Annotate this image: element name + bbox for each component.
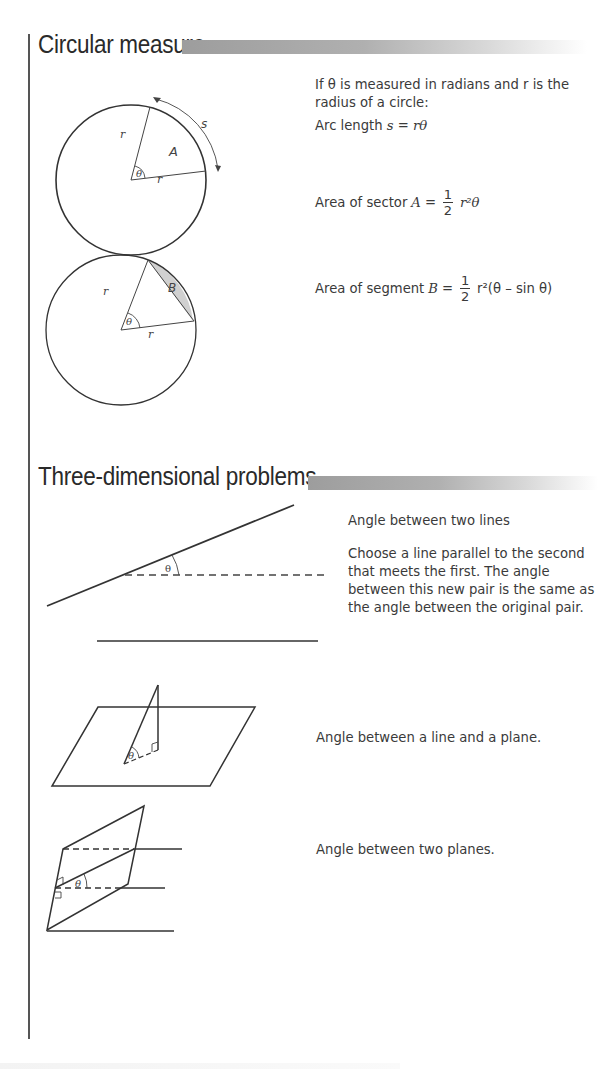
svg-text:θ: θ	[128, 750, 134, 761]
svg-text:r: r	[103, 285, 109, 298]
two-planes-diagram: θ	[20, 800, 220, 950]
svg-text:θ: θ	[75, 878, 81, 889]
sector-area-formula: Area of sector A= 12 r²θ	[315, 188, 479, 217]
circular-measure-intro: If θ is measured in radians and r is the…	[315, 76, 585, 112]
line-plane-heading: Angle between a line and a plane.	[316, 729, 541, 747]
fraction-half: 12	[443, 188, 453, 217]
two-lines-description: Choose a line parallel to the second tha…	[348, 545, 596, 617]
svg-text:θ: θ	[165, 563, 171, 574]
header-decor-bar	[308, 476, 598, 490]
arc-length-formula: Arc length s = rθ	[315, 117, 427, 135]
section-title: Circular measure	[38, 30, 205, 59]
svg-text:r: r	[120, 128, 126, 141]
header-decor-bar	[182, 40, 587, 54]
two-planes-heading: Angle between two planes.	[316, 841, 495, 859]
segment-area-formula: Area of segment B= 12 r²(θ – sin θ)	[315, 274, 552, 303]
svg-text:A: A	[168, 144, 178, 159]
line-plane-diagram: θ	[20, 670, 280, 800]
svg-text:B: B	[168, 281, 176, 295]
svg-text:θ: θ	[136, 168, 142, 179]
page-bottom-edge	[0, 1063, 400, 1069]
two-lines-heading: Angle between two lines	[348, 512, 510, 530]
two-lines-diagram: θ	[20, 500, 340, 650]
svg-text:θ: θ	[126, 316, 132, 327]
fraction-half: 12	[460, 274, 470, 303]
segment-diagram: r r θ B	[28, 250, 228, 450]
svg-text:s: s	[201, 117, 207, 131]
svg-text:r: r	[148, 328, 154, 341]
section-header-3d-problems: Three-dimensional problems	[38, 462, 347, 491]
svg-text:r: r	[157, 173, 163, 186]
section-title: Three-dimensional problems	[38, 462, 316, 491]
